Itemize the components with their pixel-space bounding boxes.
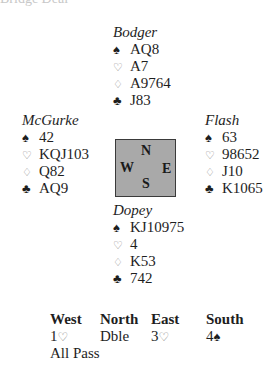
compass-box: N W E S [115, 139, 176, 197]
hand-east: Flash ♠63 ♡98652 ♢J10 ♣K1065 [205, 112, 263, 197]
suit-row-diamonds: ♢Q82 [22, 163, 89, 180]
auction-header-north: North [100, 311, 151, 328]
heart-icon: ♡ [22, 147, 39, 164]
cards-spades: 63 [222, 129, 237, 146]
compass-north-label: N [141, 143, 151, 159]
suit-row-clubs: ♣J83 [113, 92, 171, 109]
cards-diamonds: K53 [130, 253, 156, 270]
bid-level: Dble [100, 328, 129, 344]
hand-west: McGurke ♠42 ♡KQJ103 ♢Q82 ♣AQ9 [22, 112, 89, 197]
auction-header-south: South [206, 311, 266, 328]
suit-row-spades: ♠42 [22, 129, 89, 146]
suit-row-hearts: ♡A7 [113, 58, 171, 75]
compass-south-label: S [142, 176, 150, 192]
heart-icon: ♡ [113, 59, 130, 76]
cards-hearts: A7 [130, 58, 148, 75]
auction-table: West North East South 1♡ Dble 3♡ 4♠ All … [50, 311, 266, 362]
suit-row-spades: ♠63 [205, 129, 263, 146]
player-name-north: Bodger [113, 24, 171, 41]
club-icon: ♣ [113, 92, 130, 109]
suit-row-diamonds: ♢A9764 [113, 75, 171, 92]
compass-east-label: E [162, 161, 171, 177]
cards-diamonds: A9764 [130, 75, 171, 92]
suit-row-diamonds: ♢K53 [113, 253, 184, 270]
suit-row-clubs: ♣742 [113, 270, 184, 287]
cards-clubs: 742 [130, 270, 153, 287]
auction-final: All Pass [50, 345, 266, 362]
bid-south: 4♠ [206, 328, 266, 345]
bid-east: 3♡ [151, 328, 206, 345]
suit-row-diamonds: ♢J10 [205, 163, 263, 180]
diamond-icon: ♢ [22, 164, 39, 181]
player-name-south: Dopey [113, 202, 184, 219]
suit-row-spades: ♠AQ8 [113, 41, 171, 58]
cards-clubs: AQ9 [39, 180, 68, 197]
diamond-icon: ♢ [113, 254, 130, 271]
hand-south: Dopey ♠KJ10975 ♡4 ♢K53 ♣742 [113, 202, 184, 287]
suit-row-clubs: ♣AQ9 [22, 180, 89, 197]
bid-north: Dble [100, 328, 151, 345]
cards-diamonds: J10 [222, 163, 243, 180]
suit-row-hearts: ♡4 [113, 236, 184, 253]
auction-header-west: West [50, 311, 100, 328]
cards-clubs: J83 [130, 92, 151, 109]
cards-hearts: 4 [130, 236, 138, 253]
bid-level: 1 [50, 328, 58, 344]
suit-row-hearts: ♡KQJ103 [22, 146, 89, 163]
auction-bid-row: 1♡ Dble 3♡ 4♠ [50, 328, 266, 345]
cards-hearts: KQJ103 [39, 146, 89, 163]
auction-header-east: East [151, 311, 206, 328]
bid-level: 4 [206, 328, 214, 344]
spade-icon: ♠ [22, 129, 39, 146]
cards-spades: AQ8 [130, 41, 159, 58]
hand-north: Bodger ♠AQ8 ♡A7 ♢A9764 ♣J83 [113, 24, 171, 109]
suit-row-hearts: ♡98652 [205, 146, 263, 163]
club-icon: ♣ [113, 270, 130, 287]
heart-icon: ♡ [159, 330, 170, 344]
cards-spades: KJ10975 [130, 219, 184, 236]
spade-icon: ♠ [113, 219, 130, 236]
compass-west-label: W [120, 160, 134, 176]
auction-header-row: West North East South [50, 311, 266, 328]
suit-row-clubs: ♣K1065 [205, 180, 263, 197]
cards-diamonds: Q82 [39, 163, 65, 180]
club-icon: ♣ [22, 180, 39, 197]
spade-icon: ♠ [205, 129, 222, 146]
cards-hearts: 98652 [222, 146, 260, 163]
heart-icon: ♡ [205, 147, 222, 164]
player-name-east: Flash [205, 112, 263, 129]
bid-west: 1♡ [50, 328, 100, 345]
heart-icon: ♡ [113, 237, 130, 254]
diamond-icon: ♢ [205, 164, 222, 181]
cards-clubs: K1065 [222, 180, 263, 197]
spade-icon: ♠ [113, 41, 130, 58]
cropped-header-text: Bridge Deal [0, 0, 68, 7]
spade-icon: ♠ [214, 329, 221, 344]
diamond-icon: ♢ [113, 76, 130, 93]
heart-icon: ♡ [58, 330, 69, 344]
player-name-west: McGurke [22, 112, 89, 129]
suit-row-spades: ♠KJ10975 [113, 219, 184, 236]
club-icon: ♣ [205, 180, 222, 197]
bid-level: 3 [151, 328, 159, 344]
cards-spades: 42 [39, 129, 54, 146]
